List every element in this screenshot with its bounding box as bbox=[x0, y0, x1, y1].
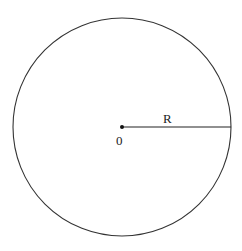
radius-label: R bbox=[163, 111, 172, 126]
circle-diagram: R 0 bbox=[0, 0, 242, 251]
center-label: 0 bbox=[116, 133, 123, 148]
center-point bbox=[120, 125, 124, 129]
